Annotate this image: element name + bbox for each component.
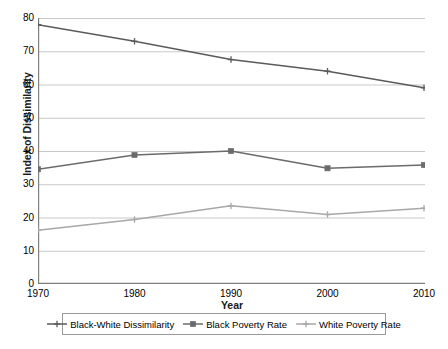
plot-area — [38, 18, 425, 284]
data-point-marker — [228, 148, 233, 153]
legend-label: Black-White Dissimilarity — [70, 319, 174, 330]
y-axis-tick-labels: 01020304050607080 — [4, 18, 34, 284]
series-line — [38, 25, 424, 88]
legend-marker-icon — [47, 319, 67, 329]
data-point-marker — [325, 166, 330, 171]
y-tick-label: 10 — [8, 246, 34, 256]
y-tick-label: 20 — [8, 213, 34, 223]
data-point-marker — [132, 152, 137, 157]
y-tick-label: 40 — [8, 146, 34, 156]
y-tick-label: 50 — [8, 113, 34, 123]
legend-item[interactable]: Black Poverty Rate — [183, 319, 287, 330]
legend-label: White Poverty Rate — [319, 319, 401, 330]
data-point-marker — [38, 167, 41, 172]
legend-item[interactable]: White Poverty Rate — [296, 319, 401, 330]
x-tick-label: 1980 — [113, 288, 157, 299]
x-axis-title: Year — [38, 299, 426, 311]
data-point-marker — [421, 162, 425, 167]
data-point-marker — [131, 38, 137, 44]
legend-label: Black Poverty Rate — [206, 319, 287, 330]
data-point-marker — [421, 85, 425, 91]
data-point-marker — [38, 227, 41, 233]
y-tick-label: 60 — [8, 80, 34, 90]
legend-item[interactable]: Black-White Dissimilarity — [47, 319, 174, 330]
legend-marker-icon — [183, 319, 203, 329]
data-point-marker — [303, 321, 309, 327]
y-tick-label: 30 — [8, 179, 34, 189]
series-1 — [38, 21, 425, 91]
y-tick-label: 80 — [8, 13, 34, 23]
line-chart: Index of Dissimilarity 01020304050607080… — [0, 0, 448, 349]
data-point-marker — [228, 203, 234, 209]
chart-legend: Black-White DissimilarityBlack Poverty R… — [62, 313, 386, 335]
data-point-marker — [131, 216, 137, 222]
x-tick-label: 2000 — [306, 288, 350, 299]
data-point-marker — [38, 21, 41, 27]
legend-marker-icon — [296, 319, 316, 329]
data-point-marker — [324, 68, 330, 74]
data-point-marker — [421, 205, 425, 211]
y-tick-label: 70 — [8, 46, 34, 56]
x-tick-label: 1970 — [16, 288, 60, 299]
data-point-marker — [54, 321, 60, 327]
data-point-marker — [191, 321, 196, 326]
data-point-marker — [228, 56, 234, 62]
plot-svg — [38, 18, 425, 284]
x-tick-label: 1990 — [209, 288, 253, 299]
data-point-marker — [324, 211, 330, 217]
x-tick-label: 2010 — [402, 288, 446, 299]
